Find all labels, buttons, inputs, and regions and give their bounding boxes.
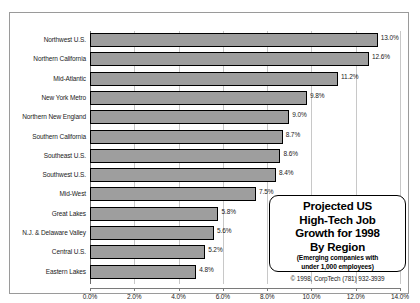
x-tick-mark: [356, 288, 357, 291]
category-label: Southern California: [14, 133, 86, 140]
bar-row: 8.6%: [90, 147, 400, 166]
bar-value-label: 4.8%: [199, 266, 213, 273]
callout-sub-1: (Emerging companies with: [270, 254, 405, 263]
bar: [90, 168, 276, 182]
x-tick-mark: [223, 288, 224, 291]
category-label: New York Metro: [14, 94, 86, 101]
x-tick-mark: [267, 288, 268, 291]
bar: [90, 207, 218, 221]
bar-row: 9.0%: [90, 108, 400, 127]
bar-value-label: 5.8%: [221, 208, 235, 215]
category-label: Northern New England: [14, 113, 86, 120]
bar-value-label: 8.4%: [279, 169, 293, 176]
bar-value-label: 8.6%: [283, 150, 297, 157]
chart-page: 0.0%2.0%4.0%6.0%8.0%10.0%12.0%14.0%13.0%…: [0, 0, 420, 303]
bar-value-label: 11.2%: [341, 73, 358, 80]
x-tick-mark: [400, 288, 401, 291]
x-tick-mark: [311, 288, 312, 291]
bar: [90, 187, 256, 201]
bar-value-label: 5.2%: [208, 246, 222, 253]
x-axis-line: [90, 288, 401, 289]
bar-row: 13.0%: [90, 31, 400, 50]
category-label: Northern California: [14, 55, 86, 62]
bar: [90, 149, 280, 163]
category-label: Great Lakes: [14, 210, 86, 217]
bar-value-label: 9.0%: [292, 111, 306, 118]
callout-line-4: By Region: [270, 241, 405, 255]
callout-sub-2: under 1,000 employees): [270, 263, 405, 272]
category-label: N.J. & Delaware Valley: [14, 229, 86, 236]
bar: [90, 110, 289, 124]
bar-value-label: 12.6%: [372, 53, 390, 60]
x-tick-label: 0.0%: [83, 293, 97, 300]
bar-row: 11.2%: [90, 70, 400, 89]
category-label: Eastern Lakes: [14, 268, 86, 275]
bar: [90, 72, 338, 86]
bar: [90, 226, 214, 240]
bar-value-label: 9.8%: [310, 92, 324, 99]
category-label: Central U.S.: [14, 248, 86, 255]
bar: [90, 33, 378, 47]
callout-line-2: High-Tech Job: [270, 214, 405, 228]
callout-line-3: Growth for 1998: [270, 227, 405, 241]
figure-frame: 0.0%2.0%4.0%6.0%8.0%10.0%12.0%14.0%13.0%…: [9, 12, 409, 294]
bar-value-label: 13.0%: [381, 34, 399, 41]
category-label: Mid-West: [14, 190, 86, 197]
bar-value-label: 8.7%: [286, 131, 300, 138]
x-tick-mark: [134, 288, 135, 291]
bar-row: 12.6%: [90, 50, 400, 69]
x-tick-label: 8.0%: [260, 293, 274, 300]
bar-row: 9.8%: [90, 89, 400, 108]
bar-row: 8.7%: [90, 128, 400, 147]
x-tick-mark: [179, 288, 180, 291]
category-label: Southeast U.S.: [14, 152, 86, 159]
bar: [90, 265, 196, 279]
bar-value-label: 5.6%: [217, 227, 231, 234]
x-tick-label: 14.0%: [391, 293, 409, 300]
x-tick-label: 6.0%: [216, 293, 230, 300]
copyright-text: © 1998, CorpTech (781) 932-3939: [269, 275, 406, 282]
bar: [90, 52, 369, 66]
callout-box: Projected US High-Tech Job Growth for 19…: [269, 195, 406, 272]
bar-row: 8.4%: [90, 166, 400, 185]
category-label: Southwest U.S.: [14, 171, 86, 178]
category-label: Northwest U.S.: [14, 36, 86, 43]
x-tick-label: 2.0%: [127, 293, 141, 300]
x-tick-label: 4.0%: [171, 293, 185, 300]
bar: [90, 91, 307, 105]
bar-value-label: 7.5%: [259, 188, 273, 195]
category-label: Mid-Atlantic: [14, 75, 86, 82]
bar: [90, 245, 205, 259]
x-tick-label: 12.0%: [347, 293, 365, 300]
x-tick-label: 10.0%: [302, 293, 320, 300]
bar: [90, 130, 283, 144]
x-tick-mark: [90, 288, 91, 291]
callout-line-1: Projected US: [270, 200, 405, 214]
